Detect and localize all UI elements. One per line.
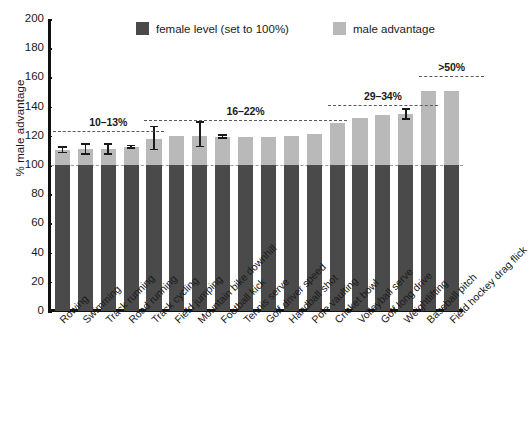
dark-swatch-icon: [136, 22, 149, 35]
legend-entry-female: female level (set to 100%): [136, 22, 289, 35]
y-tick-label: 100: [14, 159, 44, 170]
y-tick-label: 80: [14, 188, 44, 199]
y-tick-label: 140: [14, 101, 44, 112]
y-tick-label: 180: [14, 42, 44, 53]
y-tick-label: 200: [14, 13, 44, 24]
annotations-layer: 10–13%16–22%29–34%>50%: [51, 19, 463, 311]
y-tick-label: 0: [14, 305, 44, 316]
light-swatch-icon: [333, 22, 346, 35]
y-tick-label: 20: [14, 276, 44, 287]
annotation-line: [328, 105, 439, 106]
legend-label-female: female level (set to 100%): [156, 23, 289, 35]
legend: female level (set to 100%) male advantag…: [136, 22, 435, 35]
y-tick-label: 120: [14, 130, 44, 141]
annotation-line: [419, 76, 484, 77]
annotation-line: [144, 120, 346, 121]
y-tick-label: 40: [14, 247, 44, 258]
legend-entry-male: male advantage: [333, 22, 435, 35]
y-axis-ticks: 200180160140120100806040200: [8, 0, 44, 434]
annotation-label: 29–34%: [343, 90, 423, 102]
annotation-line: [53, 131, 164, 132]
legend-label-male: male advantage: [353, 23, 435, 35]
y-tick-label: 160: [14, 71, 44, 82]
annotation-label: >50%: [412, 61, 492, 73]
annotation-label: 10–13%: [68, 116, 148, 128]
annotation-label: 16–22%: [206, 105, 286, 117]
y-tick-label: 60: [14, 217, 44, 228]
